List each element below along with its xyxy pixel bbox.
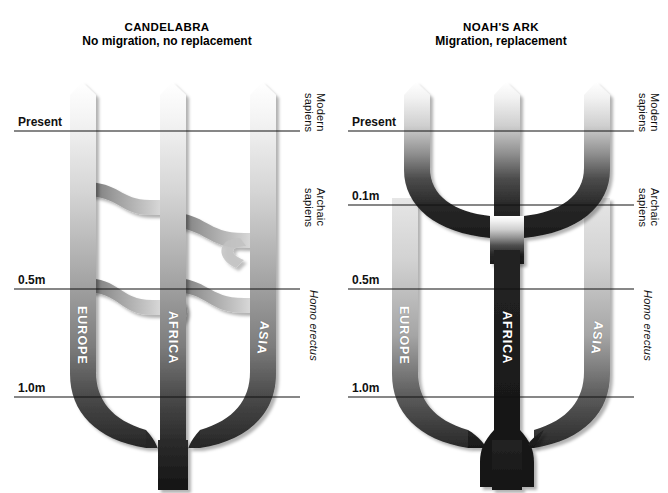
axis-label-1-0m: 1.0m: [352, 381, 379, 395]
axis-label-0-1m: 0.1m: [352, 189, 379, 203]
panel-noahs-ark: NOAH'S ARK Migration, replacement: [334, 0, 668, 493]
era-label-line2: sapiens: [637, 188, 649, 227]
axis-label-0-5m: 0.5m: [18, 273, 45, 287]
era-label-line1: Archaic: [649, 188, 661, 226]
era-label-line1: Archaic: [315, 188, 327, 226]
era-label-archaic-sapiens: Archaic sapiens: [636, 188, 661, 227]
axis-label-present: Present: [18, 115, 62, 129]
noahs-ark-diagram: [334, 0, 668, 493]
era-label-line1: Homo erectus: [642, 290, 654, 361]
axis-label-0-5m: 0.5m: [352, 273, 379, 287]
modern-lineage-trunks: [404, 82, 610, 264]
era-label-line1: Modern: [315, 93, 327, 132]
region-label-europe: EUROPE: [397, 306, 411, 365]
era-label-modern-sapiens: Modern sapiens: [302, 93, 327, 132]
era-label-line2: sapiens: [303, 93, 315, 132]
candelabra-diagram: [0, 0, 334, 493]
era-label-modern-sapiens: Modern sapiens: [636, 93, 661, 132]
region-label-europe: EUROPE: [75, 306, 89, 365]
axis-label-1-0m: 1.0m: [18, 381, 45, 395]
era-label-homo-erectus: Homo erectus: [641, 290, 654, 361]
ancestral-trunk: [468, 250, 544, 490]
region-label-africa: AFRICA: [500, 311, 514, 364]
axis-label-present: Present: [352, 115, 396, 129]
panel-candelabra: CANDELABRA No migration, no replacement: [0, 0, 334, 493]
era-label-line1: Homo erectus: [308, 290, 320, 361]
era-label-line1: Modern: [649, 93, 661, 132]
era-label-line2: sapiens: [303, 188, 315, 227]
era-label-homo-erectus: Homo erectus: [307, 290, 320, 361]
era-label-archaic-sapiens: Archaic sapiens: [302, 188, 327, 227]
era-label-line2: sapiens: [637, 93, 649, 132]
region-label-africa: AFRICA: [166, 311, 180, 364]
